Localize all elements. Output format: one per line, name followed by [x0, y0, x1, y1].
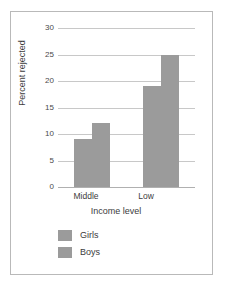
- plot-area: [58, 28, 195, 187]
- legend-swatch-boys: [58, 247, 72, 258]
- x-axis-title: Income level: [36, 206, 196, 216]
- x-axis-tick-label-middle: Middle: [56, 191, 116, 201]
- bar-low-boys: [161, 55, 179, 188]
- legend-label-girls: Girls: [80, 230, 99, 241]
- bar-middle-girls: [74, 139, 92, 187]
- y-tick-label-0: 0: [12, 183, 54, 191]
- legend-swatch-girls: [58, 230, 72, 241]
- x-axis-tick-label-low: Low: [116, 191, 176, 201]
- x-axis-baseline: [58, 187, 195, 188]
- gridline-y-30: [58, 28, 195, 29]
- bar-middle-boys: [92, 123, 110, 187]
- legend-label-boys: Boys: [80, 247, 100, 258]
- y-axis-title: Percent rejected: [17, 18, 27, 128]
- bar-chart-figure: 051015202530 Percent rejected Middle Low…: [0, 0, 225, 287]
- y-tick-label-5: 5: [12, 157, 54, 165]
- bar-low-girls: [143, 86, 161, 187]
- y-tick-label-10: 10: [12, 130, 54, 138]
